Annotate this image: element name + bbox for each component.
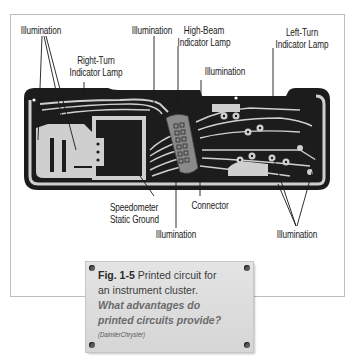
label-right-turn-line1: Right-Turn [65, 54, 127, 66]
caption-credit: (DaimlerChrysler) [98, 328, 214, 341]
label-speedometer-line1: Speedometer [110, 201, 166, 213]
label-high-beam-line1: High-Beam [173, 24, 235, 36]
label-right-turn-indicator: Right-Turn Indicator Lamp [65, 54, 127, 78]
caption-text-1: Printed circuit for [135, 269, 217, 281]
label-illumination-top-mid: Illumination [125, 24, 180, 36]
label-speedometer-line2: Static Ground [110, 213, 166, 225]
caption-line-1: Fig. 1-5 Printed circuit for [98, 268, 243, 283]
screw-icon [244, 265, 250, 271]
label-illumination-bottom-mid: Illumination [149, 228, 204, 240]
label-left-turn-line2: Indicator Lamp [271, 38, 333, 50]
label-illumination-top-left: Illumination [14, 24, 69, 36]
caption-question-1: What advantages do [98, 298, 243, 313]
caption-plate: Fig. 1-5 Printed circuit for an instrume… [86, 262, 253, 352]
caption-text-2: an instrument cluster. [98, 283, 243, 298]
screw-icon [244, 342, 250, 348]
label-speedometer-static-ground: Speedometer Static Ground [110, 201, 166, 225]
label-illumination-bottom-right: Illumination [270, 228, 325, 240]
label-left-turn-indicator: Left-Turn Indicator Lamp [271, 26, 333, 50]
label-high-beam-indicator: High-Beam Indicator Lamp [173, 24, 235, 48]
label-right-turn-line2: Indicator Lamp [65, 66, 127, 78]
caption-question-2: printed circuits provide? [98, 313, 243, 328]
figure-number: Fig. 1-5 [98, 269, 135, 281]
label-left-turn-line1: Left-Turn [271, 26, 333, 38]
screw-icon [89, 342, 95, 348]
label-connector: Connector [187, 199, 234, 211]
screw-icon [89, 265, 95, 271]
label-illumination-top-center: Illumination [198, 65, 253, 77]
label-high-beam-line2: Indicator Lamp [173, 36, 235, 48]
